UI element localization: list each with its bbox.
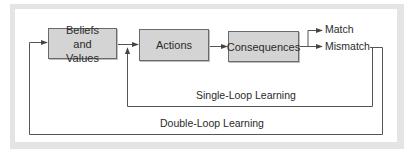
beliefs-and-values-label: Beliefs and Values [57,23,109,65]
actions-label: Actions [156,38,192,52]
actions-box: Actions [139,29,209,61]
double-loop-label: Double-Loop Learning [160,117,264,129]
consequences-label: Consequences [227,40,300,54]
match-label: Match [325,23,354,35]
consequences-box: Consequences [228,31,299,62]
beliefs-and-values-box: Beliefs and Values [48,28,117,59]
single-loop-label: Single-Loop Learning [196,89,296,101]
mismatch-label: Mismatch [325,40,370,52]
